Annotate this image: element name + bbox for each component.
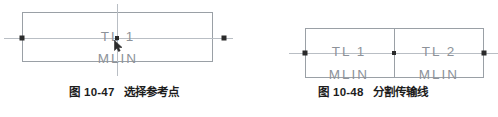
selection-cursor-icon: [114, 40, 123, 52]
node-right-terminal[interactable]: [222, 36, 227, 41]
caption-title-10-48: 分割传输线: [373, 86, 429, 98]
node-left-terminal[interactable]: [303, 51, 308, 56]
schematic-canvas-10-48[interactable]: TL 1 MLIN TL 2 MLIN: [249, 0, 498, 82]
node-left-terminal[interactable]: [20, 36, 25, 41]
component-name-label-tl1: TL 1: [332, 45, 367, 59]
component-type-label-tl2: MLIN: [419, 68, 459, 82]
caption-title-10-47: 选择参考点: [124, 86, 180, 98]
caption-number-10-48: 图 10-48: [318, 86, 363, 98]
component-type-label-tl1: MLIN: [98, 52, 138, 66]
schematic-canvas-10-47[interactable]: TL 1 MLIN: [0, 0, 249, 82]
component-type-label-tl1: MLIN: [329, 68, 369, 82]
figure-caption-10-48: 图 10-48分割传输线: [249, 84, 498, 100]
figure-pair-page: TL 1 MLIN 图 10-47选择参考点 TL: [0, 0, 498, 117]
node-right-terminal[interactable]: [482, 51, 487, 56]
node-split-point[interactable]: [392, 51, 396, 55]
figure-10-47: TL 1 MLIN 图 10-47选择参考点: [0, 0, 249, 117]
component-name-label-tl2: TL 2: [422, 45, 457, 59]
caption-number-10-47: 图 10-47: [69, 86, 114, 98]
figure-caption-10-47: 图 10-47选择参考点: [0, 84, 249, 100]
figure-10-48: TL 1 MLIN TL 2 MLIN 图 10-48分割传输线: [249, 0, 498, 117]
